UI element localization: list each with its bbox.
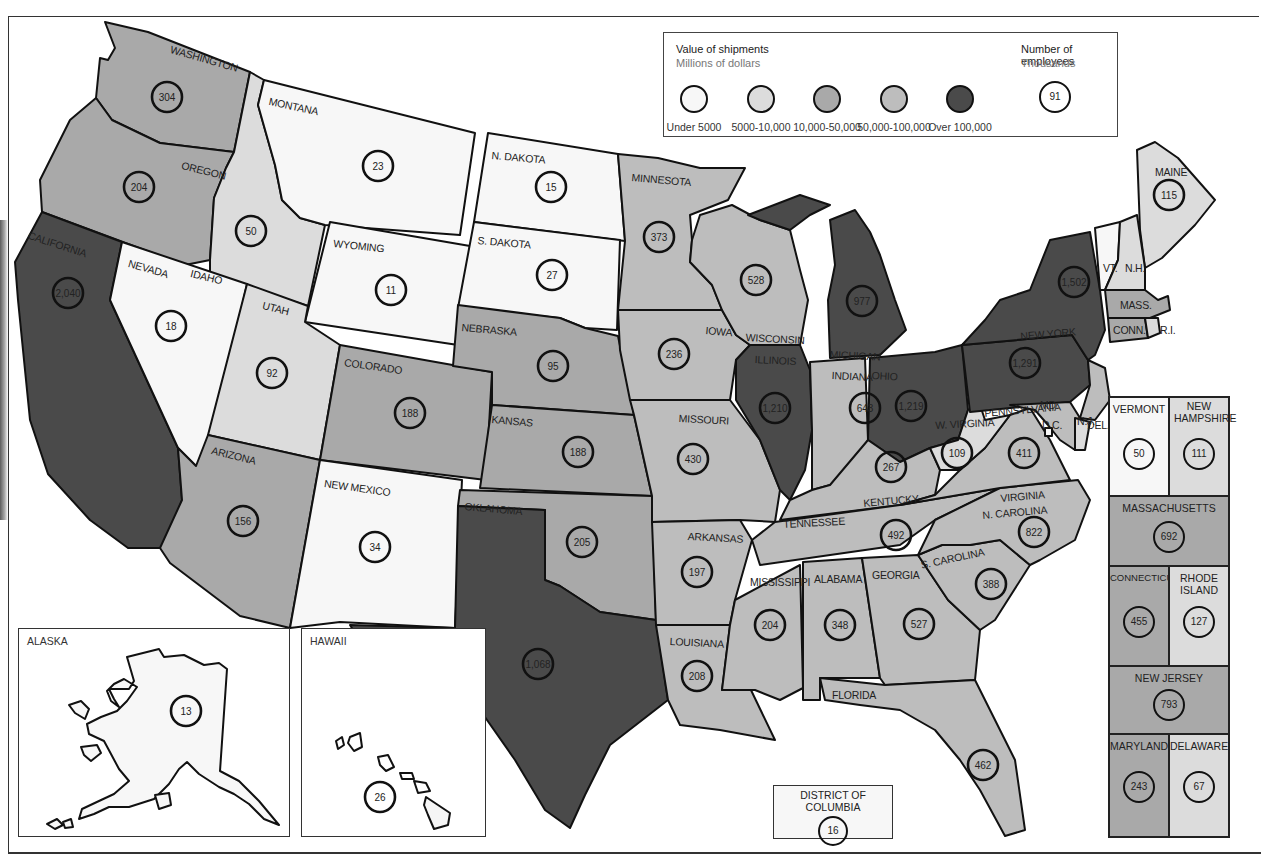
- employee-count-idaho: 50: [245, 226, 257, 237]
- state-pennsylvania: [962, 335, 1090, 412]
- employee-count-washington: 304: [159, 92, 176, 103]
- legend-swatch: [747, 85, 775, 113]
- alaska-count: 13: [180, 706, 192, 717]
- ne-state-name: VERMONT: [1110, 403, 1168, 415]
- state-label-connecticut-map: CONN.: [1113, 324, 1146, 336]
- alaska-inset: ALASKA 13: [18, 628, 290, 837]
- employee-count-kentucky: 267: [883, 462, 900, 473]
- employee-count-north-dakota: 15: [545, 182, 557, 193]
- employee-count-illinois: 1,210: [762, 403, 787, 414]
- ne-state-name: NEW HAMPSHIRE: [1174, 400, 1224, 424]
- employee-count-michigan: 977: [854, 296, 871, 307]
- employee-count-colorado: 188: [402, 408, 419, 419]
- ne-cell-connecticut: CONNECTICUT 455: [1109, 566, 1169, 666]
- state-rhode-island-map: [1145, 318, 1160, 338]
- employee-count-indiana: 643: [857, 403, 874, 414]
- employee-count-wyoming: 11: [386, 285, 397, 296]
- ne-count-circle: 127: [1183, 606, 1215, 638]
- employee-count-texas: 1,068: [525, 659, 550, 670]
- employee-count-north-carolina: 822: [1026, 527, 1043, 538]
- hawaii-inset: HAWAII 26: [301, 628, 486, 837]
- legend-swatch: [946, 85, 974, 113]
- state-label-maryland-map: MD.: [1040, 399, 1059, 411]
- employee-count-iowa: 236: [666, 349, 683, 360]
- legend-value-subtitle: Millions of dollars: [676, 57, 760, 69]
- employee-count-pennsylvania: 1,291: [1012, 358, 1037, 369]
- northeast-panel: VERMONT 50 NEW HAMPSHIRE 111 MASSACHUSET…: [1108, 396, 1230, 838]
- legend-swatch: [880, 85, 908, 113]
- hawaii-shape: 26: [302, 629, 485, 836]
- legend-employees-circle: 91: [1039, 81, 1071, 113]
- state-label-massachusetts-map: MASS.: [1120, 299, 1152, 311]
- employee-count-south-carolina: 388: [983, 579, 1000, 590]
- employee-count-louisiana: 208: [689, 671, 706, 682]
- state-maine: [1137, 142, 1215, 268]
- legend-value-title: Value of shipments: [676, 43, 769, 55]
- state-label-ohio: OHIO: [871, 369, 898, 382]
- legend-swatch: [680, 85, 708, 113]
- employee-count-oklahoma: 205: [574, 537, 591, 548]
- employee-count-utah: 92: [266, 368, 278, 379]
- state-label-iowa: IOWA: [705, 324, 733, 338]
- employee-count-wisconsin: 528: [748, 275, 765, 286]
- ne-count-circle: 455: [1123, 606, 1155, 638]
- legend: Value of shipments Millions of dollars N…: [663, 32, 1118, 137]
- hawaii-count: 26: [374, 792, 386, 803]
- ne-cell-rhode-island: RHODE ISLAND 127: [1169, 566, 1229, 666]
- employee-count-new-york: 1,502: [1061, 277, 1086, 288]
- ne-cell-massachusetts: MASSACHUSETTS 692: [1109, 496, 1229, 566]
- employee-count-california: 2,040: [55, 288, 80, 299]
- state-label-indiana: INDIANA: [831, 369, 873, 383]
- ne-count-circle: 111: [1183, 438, 1215, 470]
- employee-count-georgia: 527: [911, 619, 928, 630]
- state-label-delaware-map: DEL.: [1087, 419, 1110, 431]
- employee-count-minnesota: 373: [651, 232, 668, 243]
- ne-state-name: RHODE ISLAND: [1179, 572, 1219, 596]
- state-label-new-hampshire-map: N.H.: [1125, 262, 1145, 274]
- legend-item-over-100000: Over 100,000: [915, 85, 1005, 133]
- dc-label: DISTRICT OF COLUMBIA: [774, 789, 892, 813]
- employee-count-alabama: 348: [832, 620, 849, 631]
- employee-count-nevada: 18: [165, 321, 177, 332]
- state-label-rhode-island-map: R.I.: [1160, 324, 1176, 336]
- state-wyoming: [305, 222, 470, 345]
- legend-employees-subtitle: Thousands: [1021, 57, 1075, 69]
- ne-count-circle: 50: [1123, 438, 1155, 470]
- state-label-illinois: ILLINOIS: [754, 353, 796, 367]
- legend-swatch: [813, 85, 841, 113]
- employee-count-nebraska: 95: [547, 361, 559, 372]
- employee-count-florida: 462: [975, 760, 992, 771]
- ne-cell-delaware: DELAWARE 67: [1169, 734, 1229, 837]
- dc-count-circle: 16: [818, 816, 848, 846]
- employee-count-west-virginia: 109: [949, 448, 966, 459]
- ne-count-circle: 67: [1183, 771, 1215, 803]
- state-label-dc-map: D.C.: [1042, 419, 1062, 431]
- ne-state-name: MASSACHUSETTS: [1110, 502, 1228, 514]
- state-label-georgia: GEORGIA: [872, 569, 920, 581]
- ne-state-name: NEW JERSEY: [1110, 672, 1228, 684]
- employee-count-new-mexico: 34: [369, 542, 381, 553]
- ne-cell-new-jersey: NEW JERSEY 793: [1109, 666, 1229, 734]
- ne-count-circle: 793: [1153, 689, 1185, 721]
- dc-inset: DISTRICT OF COLUMBIA 16: [773, 785, 893, 839]
- employee-count-tennessee: 492: [888, 530, 905, 541]
- employee-count-maine: 115: [1161, 190, 1177, 201]
- employee-count-south-dakota: 27: [546, 270, 558, 281]
- state-label-florida: FLORIDA: [832, 689, 876, 701]
- employee-count-missouri: 430: [685, 454, 702, 465]
- employee-count-arizona: 156: [235, 516, 252, 527]
- legend-label: Over 100,000: [915, 121, 1005, 133]
- state-label-maine: MAINE: [1155, 166, 1187, 178]
- employee-count-montana: 23: [372, 161, 384, 172]
- ne-state-name: CONNECTICUT: [1110, 572, 1168, 584]
- employee-count-virginia: 411: [1016, 448, 1032, 459]
- ne-cell-vermont: VERMONT 50: [1109, 397, 1169, 496]
- employee-count-ohio: 1,219: [898, 401, 923, 412]
- employee-count-kansas: 188: [570, 447, 587, 458]
- state-label-vermont-map: VT.: [1103, 262, 1118, 274]
- alaska-shape: 13: [19, 629, 289, 836]
- ne-cell-maryland: MARYLAND 243: [1109, 734, 1169, 837]
- ne-state-name: MARYLAND: [1110, 740, 1168, 752]
- employee-count-arkansas: 197: [689, 567, 706, 578]
- ne-count-circle: 692: [1153, 521, 1185, 553]
